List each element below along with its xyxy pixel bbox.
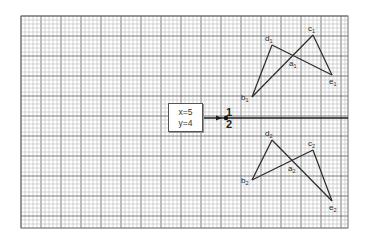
coordinate-box: x=5 y=4 [168, 103, 203, 132]
point-label-c1: c1 [308, 24, 315, 34]
x-value: x=5 [179, 107, 193, 118]
point-label-e2: e2 [329, 203, 337, 213]
point-label-b1: b1 [241, 93, 249, 103]
axis-label-2: 2 [226, 118, 232, 130]
point-label-a1: a1 [289, 59, 297, 69]
point-label-e1: e1 [329, 77, 337, 87]
point-label-c2: c2 [308, 139, 315, 149]
point-label-a2: a2 [288, 164, 296, 174]
point-label-d2: d2 [265, 129, 273, 139]
point-label-b2: b2 [241, 176, 249, 186]
point-label-d1: d1 [265, 34, 273, 44]
y-value: y=4 [179, 118, 193, 129]
axis-label-1: 1 [226, 106, 232, 118]
